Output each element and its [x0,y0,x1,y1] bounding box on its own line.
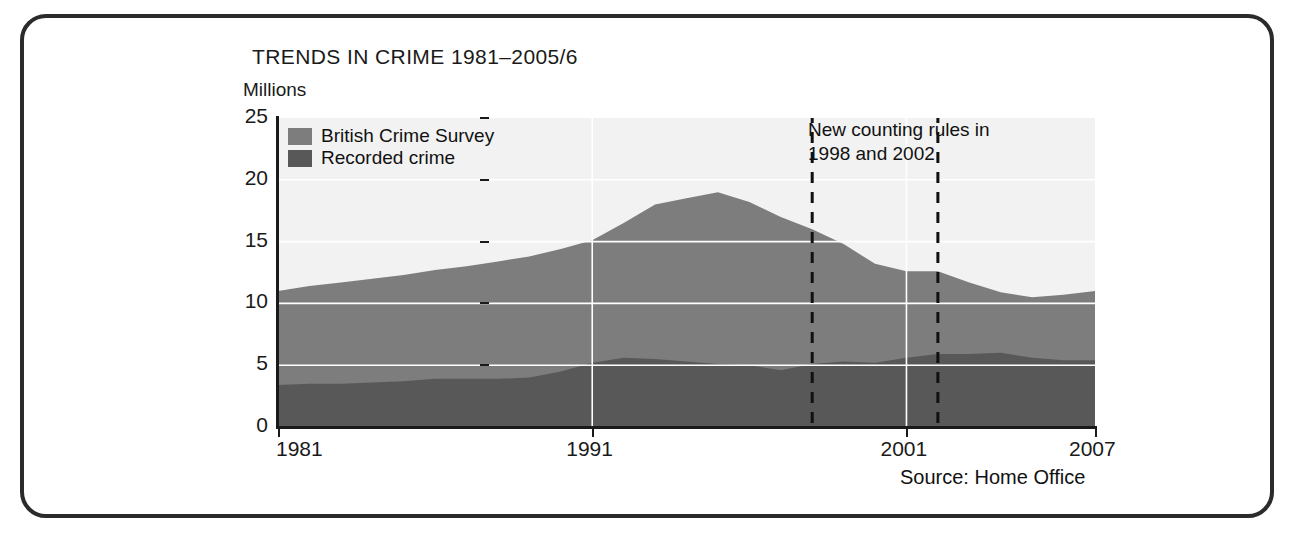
legend-label-recorded-crime: Recorded crime [321,147,455,169]
x-axis-line [276,426,1097,429]
y-tick-mark-25 [480,117,489,119]
x-tick-mark-1981 [278,427,280,437]
y-tick-mark-0 [480,426,489,428]
legend-swatch-recorded-crime [288,150,312,167]
x-tick-label-2007: 2007 [1069,437,1116,461]
y-axis-ticks: 0510152025 [212,0,268,560]
x-tick-label-1991: 1991 [566,437,613,461]
x-tick-mark-2007 [1095,427,1097,437]
legend: British Crime Survey Recorded crime [288,126,494,170]
legend-item-british-crime-survey: British Crime Survey [288,126,494,146]
y-tick-mark-5 [480,364,489,366]
counting-rules-annotation: New counting rules in 1998 and 2002 [808,118,990,166]
y-tick-label-20: 20 [222,166,268,190]
annotation-line-2: 1998 and 2002 [808,142,990,166]
y-tick-label-10: 10 [222,289,268,313]
legend-swatch-british-crime-survey [288,128,312,145]
y-tick-label-0: 0 [222,413,268,437]
y-axis-line [276,116,279,429]
y-tick-label-15: 15 [222,228,268,252]
annotation-line-1: New counting rules in [808,118,990,142]
x-tick-mark-1991 [592,427,594,437]
legend-item-recorded-crime: Recorded crime [288,148,494,168]
y-tick-label-25: 25 [222,104,268,128]
x-tick-label-2001: 2001 [880,437,927,461]
y-tick-mark-20 [480,179,489,181]
source-note: Source: Home Office [900,466,1085,489]
y-tick-label-5: 5 [222,351,268,375]
y-tick-mark-15 [480,241,489,243]
x-tick-mark-2001 [906,427,908,437]
y-tick-mark-10 [480,302,489,304]
legend-label-british-crime-survey: British Crime Survey [321,125,494,147]
x-tick-label-1981: 1981 [276,437,323,461]
chart-title: TRENDS IN CRIME 1981–2005/6 [252,45,578,69]
